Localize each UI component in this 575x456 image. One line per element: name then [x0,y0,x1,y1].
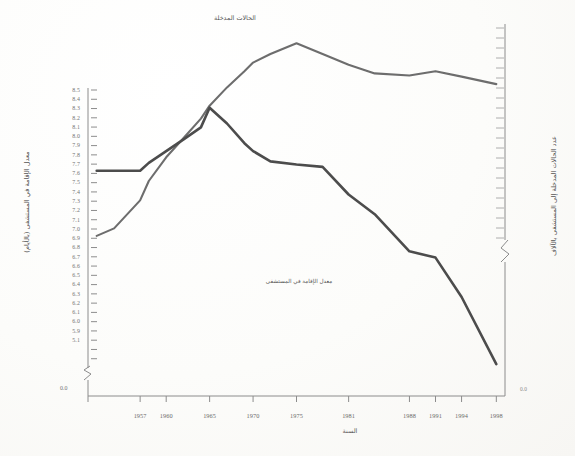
left-axis-tick-label: 7.5 [60,179,80,185]
left-axis-tick-label: 6.1 [60,309,80,315]
left-axis-tick-label: 7.1 [60,217,80,223]
x-axis-tick-label: 1970 [238,412,268,419]
left-axis-tick-label: 7.3 [60,198,80,204]
x-axis-tick-label: 1994 [447,412,477,419]
left-axis-tick-label: 7.7 [60,161,80,167]
annotation-length-of-stay: معدل الإقامة في المستشفى [240,278,358,284]
left-axis-tick-label: 6.2 [60,300,80,306]
left-axis-tick-label: 7.0 [60,226,80,232]
right-axis-zero-label: 0.0 [520,386,527,392]
series-line-length-of-stay [97,108,497,364]
left-axis-title: معدل الإقامة في المستشفى (بالأيام) [23,127,31,277]
x-axis-tick-label: 1975 [282,412,312,419]
left-axis-tick-label: 6.4 [60,281,80,287]
series-line-admitted-cases [97,43,497,236]
left-axis-tick-label: 8.0 [60,133,80,139]
left-axis-ticks [91,90,97,359]
x-axis-tick-label: 1960 [151,412,181,419]
right-axis-title: عدد الحالات المدخلة إلى المستشفى بالآلاف [550,121,558,271]
left-axis-tick-label: 8.2 [60,115,80,121]
left-axis-tick-label: 5.9 [60,328,80,334]
left-axis-break-icon [84,366,91,380]
left-axis-tick-label: 5.1 [60,337,80,343]
left-axis-tick-label: 6.5 [60,272,80,278]
left-axis-tick-label: 6.7 [60,254,80,260]
x-axis-tick-label: 1981 [334,412,364,419]
left-axis-tick-label: 6.9 [60,235,80,241]
x-axis-tick-label: 1965 [195,412,225,419]
left-axis-tick-label: 6.8 [60,244,80,250]
right-axis-break-icon [501,240,509,262]
x-axis-ticks [88,396,496,402]
x-axis-title: السنة [330,427,370,435]
left-axis-tick-label: 6.6 [60,263,80,269]
right-axis [501,24,509,396]
left-axis-tick-label: 8.5 [60,87,80,93]
left-axis-tick-label: 7.4 [60,189,80,195]
left-axis-tick-label: 6.3 [60,291,80,297]
left-axis [84,88,91,396]
right-axis-ticks [496,28,504,238]
left-axis-tick-label: 7.9 [60,142,80,148]
chart-canvas [0,0,575,456]
left-axis-tick-label: 7.6 [60,170,80,176]
chart-figure: معدل الإقامة في المستشفى (بالأيام) عدد ا… [0,0,575,456]
left-axis-tick-label: 7.8 [60,152,80,158]
left-axis-tick-label: 8.4 [60,96,80,102]
left-axis-tick-label: 8.1 [60,124,80,130]
left-axis-tick-label: 7.2 [60,207,80,213]
left-axis-tick-label: 6.0 [60,318,80,324]
left-axis-zero-label: 0.0 [60,385,68,391]
x-axis-tick-label: 1998 [481,412,511,419]
left-axis-tick-label: 8.3 [60,105,80,111]
annotation-admitted-cases: الحالات المدخلة [200,14,270,22]
